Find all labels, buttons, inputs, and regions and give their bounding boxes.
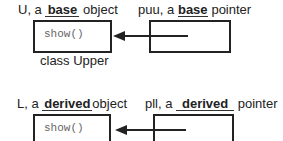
fill-blank: base <box>178 4 208 17</box>
label-prefix: puu, a <box>138 2 174 17</box>
label-suffix: pointer <box>238 96 278 111</box>
label-prefix: L, a <box>17 96 39 111</box>
arrow-head-icon <box>113 31 125 41</box>
label-suffix: pointer <box>211 2 251 17</box>
label-suffix: object <box>92 96 127 111</box>
pll-pointer-box <box>153 114 234 141</box>
top-pointer-label: puu, a base pointer <box>138 2 251 17</box>
bottom-object-label: L, a derivedobject <box>17 96 127 111</box>
bottom-pointer-label: pll, a derived pointer <box>145 96 277 111</box>
class-caption: class Upper <box>40 53 109 68</box>
fill-blank: derived <box>176 98 234 111</box>
method-show: show() <box>44 28 84 40</box>
fill-blank: base <box>45 4 79 17</box>
label-prefix: pll, a <box>145 96 172 111</box>
label-prefix: U, a <box>18 2 42 17</box>
pointer-arrow-line <box>122 129 186 131</box>
method-show: show() <box>44 122 84 134</box>
top-object-label: U, a base object <box>18 2 118 17</box>
pointer-arrow-line <box>120 35 188 37</box>
fill-blank: derived <box>42 98 92 111</box>
arrow-head-icon <box>115 125 127 135</box>
label-suffix: object <box>83 2 118 17</box>
